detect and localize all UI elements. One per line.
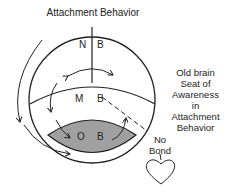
mid-brain-divider: [30, 87, 155, 104]
region-mb-letter-m: M: [75, 94, 83, 104]
old-brain-region: [48, 120, 136, 153]
heart-icon: [146, 160, 174, 184]
region-mb-letter-b: B: [97, 94, 104, 104]
region-nb-letter-b: B: [97, 40, 104, 50]
region-nb-letter-n: N: [79, 40, 86, 50]
region-ob-letter-o: O: [77, 132, 85, 142]
old-brain-caption: Old brain Seat of Awareness in Attachmen…: [158, 67, 233, 133]
diagram-title: Attachment Behavior: [0, 8, 186, 18]
horizontal-double-arrow-icon: [68, 69, 113, 76]
region-ob-letter-b: B: [97, 132, 104, 142]
into-mb-arrow-icon: [50, 83, 57, 112]
no-bond-label: No Bond: [140, 134, 180, 156]
